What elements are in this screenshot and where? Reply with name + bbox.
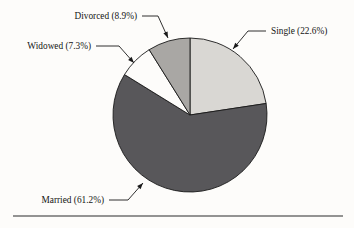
slice-label-divorced: Divorced (8.9%) <box>75 11 137 22</box>
pie-chart-canvas: Single (22.6%)Married (61.2%)Widowed (7.… <box>0 0 354 228</box>
slice-label-single: Single (22.6%) <box>271 26 327 37</box>
pie-slices-group <box>113 38 267 192</box>
leader-line-widowed <box>96 46 134 63</box>
pie-slice-single[interactable] <box>190 38 266 115</box>
leader-line-single <box>233 31 266 49</box>
leader-line-divorced <box>142 16 168 38</box>
slice-label-widowed: Widowed (7.3%) <box>27 41 91 52</box>
pie-chart-figure: Single (22.6%)Married (61.2%)Widowed (7.… <box>0 0 354 228</box>
leader-line-married <box>109 183 143 200</box>
leader-arrow-divorced <box>163 31 168 38</box>
slice-label-married: Married (61.2%) <box>42 195 104 206</box>
